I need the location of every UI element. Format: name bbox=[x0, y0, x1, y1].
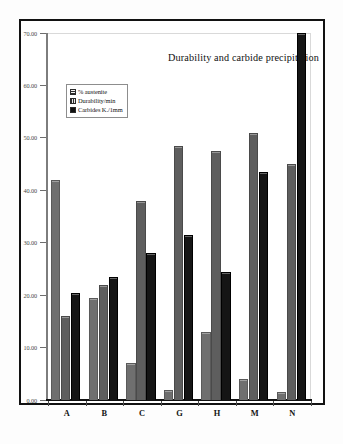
bar bbox=[201, 332, 210, 400]
bar bbox=[99, 285, 108, 400]
y-axis-tick bbox=[40, 85, 46, 86]
bar bbox=[71, 293, 80, 400]
x-axis-tick bbox=[161, 401, 162, 406]
x-axis-label: N bbox=[272, 409, 312, 418]
legend-item: Durability/min bbox=[70, 96, 123, 105]
x-axis-label: A bbox=[47, 409, 87, 418]
bar bbox=[109, 277, 118, 400]
x-axis-tick bbox=[311, 401, 312, 406]
bar bbox=[164, 390, 173, 400]
bar bbox=[249, 133, 258, 400]
y-axis-tick bbox=[40, 347, 46, 348]
bar bbox=[126, 363, 135, 400]
y-axis-tick bbox=[40, 33, 46, 34]
y-axis-label: 40.00 bbox=[0, 187, 37, 194]
bar bbox=[287, 164, 296, 400]
x-axis-tick bbox=[86, 401, 87, 406]
bar bbox=[61, 316, 70, 400]
x-axis-label: M bbox=[235, 409, 275, 418]
x-axis-tick bbox=[273, 401, 274, 406]
bar bbox=[146, 253, 155, 400]
x-axis-label: G bbox=[160, 409, 200, 418]
scanned-page: Source: Inst. Paleochem. Sedimentologica… bbox=[0, 0, 343, 444]
y-axis-label: 50.00 bbox=[0, 134, 37, 141]
bar bbox=[221, 272, 230, 400]
y-axis-tick bbox=[40, 137, 46, 138]
y-axis-label: 70.00 bbox=[0, 30, 37, 37]
legend-swatch-icon bbox=[70, 98, 76, 104]
bar bbox=[174, 146, 183, 400]
y-axis-label: 20.00 bbox=[0, 292, 37, 299]
x-axis-tick bbox=[48, 401, 49, 406]
chart-legend: % austenite Durability/min Carbides K./1… bbox=[66, 84, 128, 118]
legend-swatch-icon bbox=[70, 107, 76, 113]
x-axis-tick bbox=[236, 401, 237, 406]
bar bbox=[239, 379, 248, 400]
y-axis-tick bbox=[40, 295, 46, 296]
legend-label: Durability/min bbox=[78, 97, 115, 104]
bar bbox=[297, 33, 306, 400]
y-axis-tick bbox=[40, 400, 46, 401]
x-axis-label: B bbox=[84, 409, 124, 418]
bar bbox=[89, 298, 98, 400]
legend-item: Carbides K./1mm bbox=[70, 105, 123, 114]
x-axis-tick bbox=[198, 401, 199, 406]
legend-label: Carbides K./1mm bbox=[78, 106, 123, 113]
bar bbox=[259, 172, 268, 400]
y-axis-tick bbox=[40, 242, 46, 243]
y-axis-label: 0.00 bbox=[0, 397, 37, 404]
y-axis-label: 60.00 bbox=[0, 82, 37, 89]
x-axis-tick bbox=[123, 401, 124, 406]
bar bbox=[184, 235, 193, 400]
bar bbox=[136, 201, 145, 400]
legend-item: % austenite bbox=[70, 87, 123, 96]
y-axis-tick bbox=[40, 190, 46, 191]
bar bbox=[211, 151, 220, 400]
bar bbox=[51, 180, 60, 400]
y-axis-label: 10.00 bbox=[0, 344, 37, 351]
x-axis-label: H bbox=[197, 409, 237, 418]
x-axis-label: C bbox=[122, 409, 162, 418]
legend-label: % austenite bbox=[78, 88, 107, 95]
y-axis-label: 30.00 bbox=[0, 239, 37, 246]
legend-swatch-icon bbox=[70, 89, 76, 95]
bar bbox=[277, 392, 286, 400]
